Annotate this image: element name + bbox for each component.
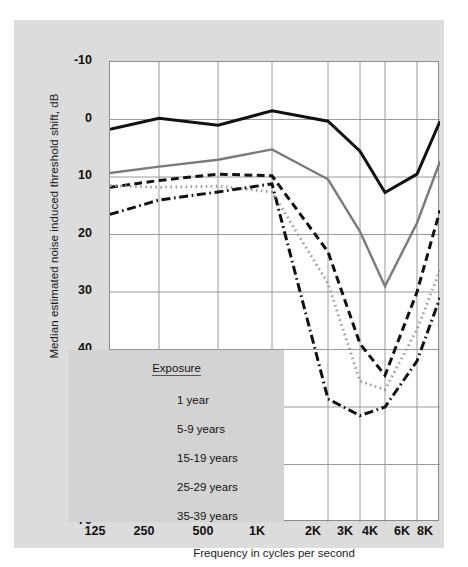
x-tick-label: 3K bbox=[337, 524, 353, 538]
x-tick-label: 4K bbox=[362, 524, 378, 538]
legend-item: 5-9 years bbox=[69, 419, 284, 445]
legend-item: 1 year bbox=[69, 390, 284, 416]
y-tick-label: -10 bbox=[44, 53, 92, 67]
legend-item: 35-39 years bbox=[69, 506, 284, 532]
figure-panel: Median estimated noise induced threshold… bbox=[14, 20, 444, 548]
y-tick-label: 0 bbox=[44, 111, 92, 125]
x-tick-label: 6K bbox=[394, 524, 410, 538]
x-tick-label: 2K bbox=[305, 524, 321, 538]
legend-title: Exposure bbox=[69, 362, 284, 374]
legend: Exposure 1 year5-9 years15-19 years25-29… bbox=[69, 350, 284, 522]
figure: Median estimated noise induced threshold… bbox=[0, 0, 468, 567]
legend-label: 5-9 years bbox=[177, 423, 281, 435]
legend-label: 15-19 years bbox=[177, 452, 281, 464]
y-tick-label: 10 bbox=[44, 168, 92, 182]
legend-label: 35-39 years bbox=[177, 510, 281, 522]
legend-label: 1 year bbox=[177, 394, 281, 406]
y-tick-label: 30 bbox=[44, 283, 92, 297]
legend-label: 25-29 years bbox=[177, 481, 281, 493]
y-tick-label: 20 bbox=[44, 226, 92, 240]
legend-item: 15-19 years bbox=[69, 448, 284, 474]
x-tick-label: 8K bbox=[417, 524, 433, 538]
legend-item: 25-29 years bbox=[69, 477, 284, 503]
x-axis-label: Frequency in cycles per second bbox=[109, 547, 439, 559]
